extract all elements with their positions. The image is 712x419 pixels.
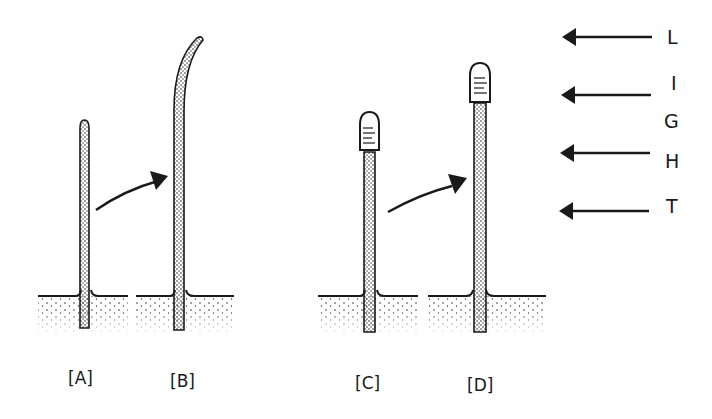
- panel-label-b: [B]: [170, 371, 195, 391]
- light-letter-l: L: [667, 26, 678, 48]
- panel-label-c: [C]: [355, 373, 380, 393]
- panel-label-d: [D]: [467, 375, 493, 395]
- growth-arrow-ab: [96, 171, 168, 210]
- left-arrow-icon: [561, 86, 651, 104]
- panel-label-a: [A]: [68, 368, 93, 388]
- light-letter-g: G: [664, 110, 679, 132]
- coleoptile-a: [80, 120, 89, 328]
- phototropism-diagram: L I G H T [A] [B] [C] [D]: [0, 0, 712, 419]
- left-arrow-icon: [559, 202, 649, 220]
- light-letter-i: I: [671, 72, 677, 94]
- light-letter-h: H: [665, 150, 679, 172]
- soil-right: [318, 290, 546, 332]
- light-letter-t: T: [666, 195, 678, 217]
- coleoptile-b: [174, 37, 203, 330]
- diagram-drawing: [0, 0, 712, 419]
- growth-arrow-cd: [388, 174, 467, 212]
- left-arrow-icon: [560, 144, 650, 162]
- soil-left: [38, 290, 234, 332]
- left-arrow-icon: [562, 28, 652, 46]
- light-arrows: [559, 28, 652, 220]
